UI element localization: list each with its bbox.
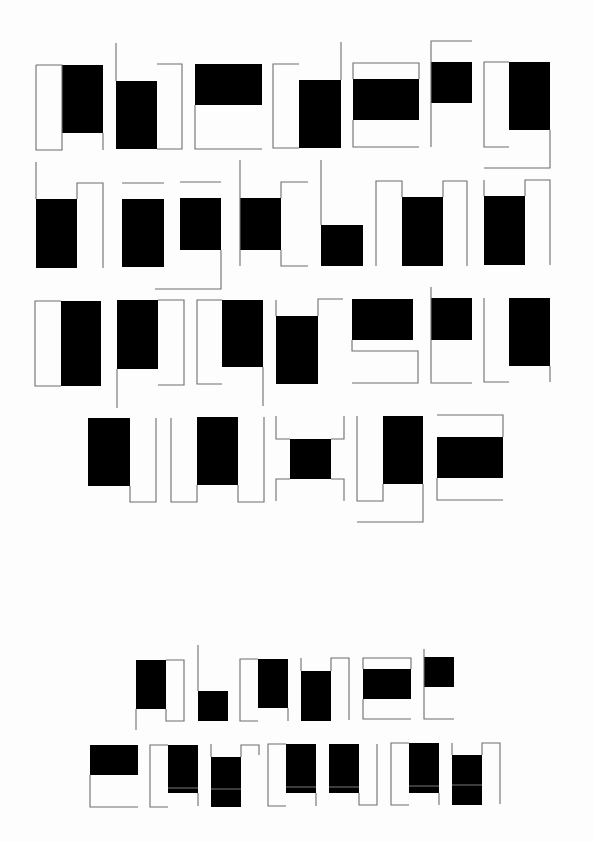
glyph-o xyxy=(35,301,101,386)
glyph-stroke xyxy=(331,416,344,439)
glyph-stroke xyxy=(363,658,411,669)
glyph-stroke xyxy=(484,130,550,168)
sample-glyph-5 xyxy=(363,658,411,719)
glyph-h xyxy=(36,162,103,268)
glyph-stroke xyxy=(240,659,258,721)
sample-line-1 xyxy=(136,645,454,730)
glyph-stroke xyxy=(484,62,509,147)
glyph-v xyxy=(88,418,156,502)
glyph-t xyxy=(431,287,472,383)
glyph-stroke xyxy=(363,699,411,719)
glyph-r xyxy=(276,299,343,384)
sample-glyph-7 xyxy=(452,743,500,805)
glyph-stroke xyxy=(281,182,308,198)
glyph-stroke xyxy=(158,300,184,385)
glyph-stroke xyxy=(443,181,467,266)
glyph-m xyxy=(376,181,467,266)
glyph-block xyxy=(88,418,130,486)
glyph-block xyxy=(286,744,316,793)
glyph-stroke xyxy=(482,743,500,804)
glyph-a xyxy=(36,65,103,150)
sample-glyph-4 xyxy=(268,744,316,806)
glyph-block xyxy=(62,65,103,133)
glyph-stroke xyxy=(359,744,377,805)
glyph-block xyxy=(509,62,550,130)
glyph-stroke xyxy=(376,181,402,266)
glyph-block xyxy=(484,196,525,265)
glyph-stroke xyxy=(273,64,299,148)
sample-glyph-2 xyxy=(198,645,228,721)
sample-glyph-6 xyxy=(391,743,439,805)
glyph-block xyxy=(61,301,101,386)
glyph-block xyxy=(36,199,77,268)
glyph-block xyxy=(301,671,331,721)
glyph-block xyxy=(222,300,263,367)
glyph-stroke xyxy=(36,65,62,150)
glyph-block xyxy=(431,62,472,103)
glyph-stroke xyxy=(276,416,290,439)
glyph-stroke xyxy=(352,340,418,383)
glyph-block xyxy=(509,298,550,366)
glyph-u xyxy=(484,298,550,382)
glyph-stroke xyxy=(276,479,290,501)
sample-glyph-3 xyxy=(211,744,259,807)
glyph-block xyxy=(180,198,221,250)
glyph-stroke xyxy=(357,416,383,501)
glyph-c xyxy=(195,64,262,149)
glyph-block xyxy=(195,64,262,105)
glyph-n xyxy=(484,180,550,265)
glyph-stroke xyxy=(150,745,168,807)
glyph-stroke xyxy=(268,744,286,806)
glyph-l xyxy=(321,160,363,266)
glyph-block xyxy=(136,660,166,709)
glyph-block xyxy=(211,757,241,807)
alphabet-glyphs xyxy=(35,41,550,522)
glyph-stroke xyxy=(437,478,503,500)
glyph-x xyxy=(276,416,344,501)
glyph-w xyxy=(171,417,264,502)
glyph-i xyxy=(122,183,164,267)
glyph-block xyxy=(168,745,198,793)
glyph-stroke xyxy=(331,658,349,720)
glyph-stroke xyxy=(353,63,419,79)
glyph-block xyxy=(197,417,238,485)
glyph-block xyxy=(90,745,138,775)
glyph-stroke xyxy=(281,250,308,266)
glyph-stroke xyxy=(318,299,343,316)
glyph-block xyxy=(240,198,281,250)
glyph-stroke xyxy=(357,484,423,522)
sample-glyph-1 xyxy=(90,745,138,807)
glyph-block xyxy=(258,659,288,708)
sample-glyph-5 xyxy=(329,744,377,805)
glyph-j xyxy=(155,182,221,289)
glyph-y xyxy=(357,416,423,522)
glyph-stroke xyxy=(90,775,138,807)
glyph-block xyxy=(402,197,443,266)
glyph-stroke xyxy=(331,479,344,501)
glyph-stroke xyxy=(391,743,409,805)
glyph-g xyxy=(484,62,550,168)
sample-glyph-2 xyxy=(150,745,198,807)
glyph-block xyxy=(299,80,341,148)
glyph-q xyxy=(197,300,263,406)
sample-words xyxy=(90,645,500,807)
glyph-stroke xyxy=(77,183,103,268)
glyph-block xyxy=(329,744,359,793)
glyph-block xyxy=(353,79,419,120)
glyph-block xyxy=(116,81,157,149)
glyph-block xyxy=(290,439,331,479)
sample-line-2 xyxy=(90,743,500,807)
glyph-block xyxy=(321,225,363,266)
glyph-block xyxy=(424,657,454,687)
glyph-stroke xyxy=(437,415,503,437)
glyph-stroke xyxy=(238,417,264,502)
glyph-block xyxy=(431,298,472,340)
sample-glyph-1 xyxy=(136,660,184,730)
glyph-stroke xyxy=(166,660,184,721)
glyph-stroke xyxy=(35,301,61,386)
glyph-block xyxy=(352,299,413,340)
glyph-stroke xyxy=(171,418,197,502)
alphabet-specimen-page: Geometric alphabet specimen xyxy=(0,0,594,842)
sample-glyph-3 xyxy=(240,659,288,721)
glyph-block xyxy=(383,416,423,484)
